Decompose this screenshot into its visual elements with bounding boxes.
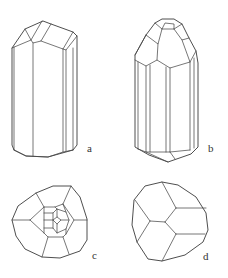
- crystal-a: [12, 21, 77, 157]
- label-a: a: [87, 143, 92, 154]
- label-c: c: [92, 250, 97, 261]
- label-d: d: [203, 251, 209, 262]
- label-b: b: [208, 143, 214, 154]
- crystal-b: [135, 19, 198, 162]
- crystal-figure: a b c d: [0, 0, 228, 278]
- crystal-c: [12, 186, 87, 258]
- crystal-d: [132, 182, 208, 261]
- crystal-drawings: [0, 0, 228, 278]
